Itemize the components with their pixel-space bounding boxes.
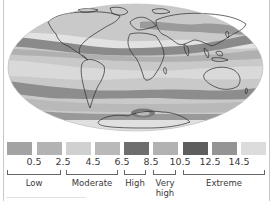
legend-swatch-8.5 [124, 142, 149, 155]
category-low: Low [26, 178, 43, 188]
legend-swatch-0.5 [7, 142, 32, 155]
legend-tick: 4.5 [85, 156, 100, 168]
category-high: High [125, 178, 145, 188]
uv-index-legend: 0.5 2.5 4.5 6.5 8.5 10.5 12.5 14.5 Low M… [0, 0, 273, 201]
category-label: Extreme [206, 178, 242, 188]
caption-remnant [6, 197, 86, 198]
bracket-extreme [183, 170, 265, 175]
bracket-low [7, 170, 61, 175]
legend-swatch-6.5 [95, 142, 120, 155]
category-moderate: Moderate [72, 178, 112, 188]
category-label: Low [26, 178, 43, 188]
legend-tick: 8.5 [143, 156, 158, 168]
legend-tick: 14.5 [228, 156, 249, 168]
legend-swatch-12.5 [183, 142, 208, 155]
category-label: Very [156, 178, 175, 188]
bracket-high [124, 170, 146, 175]
category-label-line2: high [156, 188, 175, 198]
legend-tick: 0.5 [26, 156, 41, 168]
legend-tick: 6.5 [114, 156, 129, 168]
legend-tick: 10.5 [169, 156, 190, 168]
legend-swatch-10.5 [153, 142, 178, 155]
legend-tick: 12.5 [199, 156, 220, 168]
legend-swatch-2.5 [37, 142, 62, 155]
category-extreme: Extreme [206, 178, 242, 188]
bracket-very-high [153, 170, 176, 175]
bracket-moderate [66, 170, 118, 175]
category-label: Moderate [72, 178, 112, 188]
category-label: High [125, 178, 145, 188]
legend-tick: 2.5 [55, 156, 70, 168]
legend-swatch-4.5 [66, 142, 91, 155]
legend-swatch-max [241, 142, 266, 155]
category-very-high: Very high [156, 178, 175, 198]
legend-swatch-14.5 [212, 142, 237, 155]
